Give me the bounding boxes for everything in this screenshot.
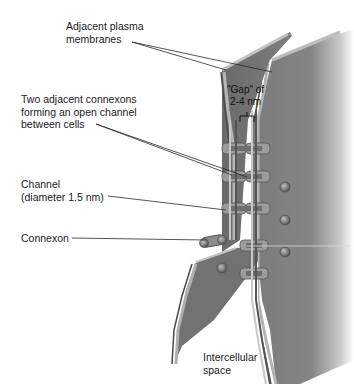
label-adjacent-connexons: Two adjacent connexons forming an open c…: [21, 93, 137, 131]
connexon-pair: [240, 268, 268, 279]
gap-junction-diagram: Adjacent plasma membranes Two adjacent c…: [0, 0, 354, 384]
label-channel: Channel (diameter 1.5 nm): [21, 178, 104, 203]
label-gap: "Gap" of 2-4 nm: [227, 84, 264, 108]
label-connexon: Connexon: [21, 232, 69, 245]
label-intercellular-space: Intercellular space: [203, 351, 257, 376]
label-adjacent-plasma-membranes: Adjacent plasma membranes: [66, 20, 144, 45]
connexon-pair: [240, 240, 268, 251]
